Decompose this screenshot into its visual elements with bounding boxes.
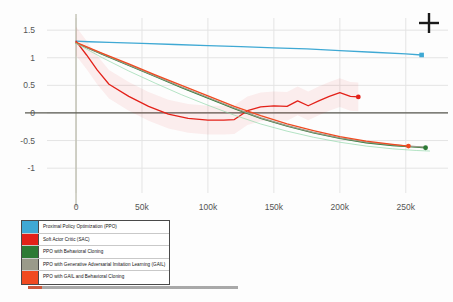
svg-text:50k: 50k xyxy=(135,202,149,212)
legend-item-label: PPO with Behavioral Cloning xyxy=(39,246,169,258)
legend-color-swatch xyxy=(22,259,39,271)
chart-legend: Proximal Policy Optimization (PPO)Soft A… xyxy=(21,220,170,285)
svg-text:-0.5: -0.5 xyxy=(20,136,35,146)
y-axis-tick-labels: 1.510.50-0.5-1 xyxy=(20,25,35,173)
svg-text:0: 0 xyxy=(74,202,79,212)
endpoint-markers xyxy=(356,53,428,150)
svg-text:1.5: 1.5 xyxy=(23,25,35,35)
legend-item[interactable]: Proximal Policy Optimization (PPO) xyxy=(22,221,169,234)
legend-item-label: Soft Actor Critic (SAC) xyxy=(39,234,169,246)
bottom-color-strip xyxy=(28,286,238,289)
svg-text:150k: 150k xyxy=(265,202,284,212)
svg-text:-1: -1 xyxy=(27,163,35,173)
legend-color-swatch xyxy=(22,246,39,258)
chart-screenshot: 050k100k150k200k250k 1.510.50-0.5-1 Prox… xyxy=(0,0,453,302)
legend-item-label: PPO with GAIL and Behavioral Cloning xyxy=(39,271,169,284)
svg-text:250k: 250k xyxy=(397,202,416,212)
legend-item[interactable]: PPO with GAIL and Behavioral Cloning xyxy=(22,271,169,284)
legend-item[interactable]: PPO with Generative Adversarial Imitatio… xyxy=(22,259,169,272)
svg-text:1: 1 xyxy=(30,53,35,63)
legend-color-swatch xyxy=(22,234,39,246)
x-axis-tick-labels: 050k100k150k200k250k xyxy=(74,202,416,212)
legend-color-swatch xyxy=(22,221,39,233)
legend-item-label: PPO with Generative Adversarial Imitatio… xyxy=(39,259,169,271)
legend-color-swatch xyxy=(22,271,39,284)
line-chart-svg: 050k100k150k200k250k 1.510.50-0.5-1 xyxy=(0,0,453,215)
legend-item[interactable]: PPO with Behavioral Cloning xyxy=(22,246,169,259)
svg-text:0: 0 xyxy=(30,108,35,118)
crosshair-icon xyxy=(418,12,440,34)
svg-text:200k: 200k xyxy=(331,202,350,212)
legend-item[interactable]: Soft Actor Critic (SAC) xyxy=(22,234,169,247)
chart-plot-area: 050k100k150k200k250k 1.510.50-0.5-1 xyxy=(0,0,453,215)
svg-text:0.5: 0.5 xyxy=(23,80,35,90)
svg-text:100k: 100k xyxy=(199,202,218,212)
legend-item-label: Proximal Policy Optimization (PPO) xyxy=(39,221,169,233)
